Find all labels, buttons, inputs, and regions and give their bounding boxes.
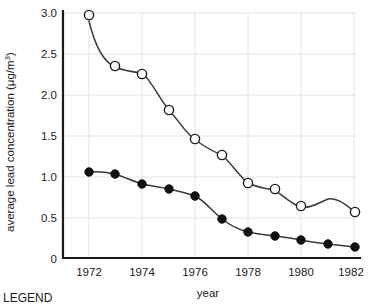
data-point-marker [138,180,146,188]
x-tick-label: 1980 [288,266,314,278]
data-point-marker [243,178,252,187]
y-axis-title-tail: ) [4,52,16,56]
data-point-marker [297,236,305,244]
data-point-marker [296,201,305,210]
data-point-marker [351,243,359,251]
x-tick-label: 1978 [235,266,261,278]
data-point-marker [111,170,119,178]
data-point-marker [190,134,199,143]
x-tick-label: 1974 [129,266,155,278]
data-point-marker [350,207,359,216]
data-point-marker [217,150,226,159]
data-point-marker [191,192,199,200]
data-point-marker [165,185,173,193]
open-circle-series-line [89,21,355,212]
y-tick-label: 3.0 [41,7,57,19]
y-tick-label: 2.0 [41,89,57,101]
grid-horizontal [63,13,357,218]
filled-circle-series-line [89,172,355,247]
y-axis-tick-labels: 3.0 2.5 2.0 1.5 1.0 0.5 0 [41,7,57,265]
open-circle-markers [84,10,359,216]
x-axis-title: year [197,287,220,299]
y-tick-label: 1.0 [41,171,57,183]
lead-concentration-line-chart: 3.0 2.5 2.0 1.5 1.0 0.5 0 1972 1974 1976… [0,0,368,308]
data-point-marker [85,168,93,176]
axis-lines [63,11,360,258]
x-tick-label: 1976 [182,266,208,278]
data-point-marker [244,228,252,236]
data-point-marker [110,61,119,70]
legend-heading: LEGEND [3,291,53,305]
data-point-marker [271,232,279,240]
y-axis-title: average lead concentration (μg/m3) [3,52,16,232]
svg-text:average lead concentration (μg: average lead concentration (μg/m3) [3,52,16,232]
y-tick-label: 0 [51,253,57,265]
data-point-marker [84,10,93,19]
filled-circle-markers [85,168,359,251]
y-axis-title-main: average lead concentration (μg/m [4,60,16,232]
y-tick-label: 0.5 [41,212,57,224]
data-point-marker [270,184,279,193]
x-tick-label: 1982 [338,266,364,278]
y-tick-label: 1.5 [41,130,57,142]
x-axis-tick-labels: 1972 1974 1976 1978 1980 1982 [76,266,364,278]
data-point-marker [218,215,226,223]
chart-figure: 3.0 2.5 2.0 1.5 1.0 0.5 0 1972 1974 1976… [0,0,368,308]
data-point-marker [137,69,146,78]
y-tick-label: 2.5 [41,48,57,60]
data-point-marker [324,240,332,248]
data-point-marker [164,105,173,114]
x-tick-label: 1972 [76,266,102,278]
